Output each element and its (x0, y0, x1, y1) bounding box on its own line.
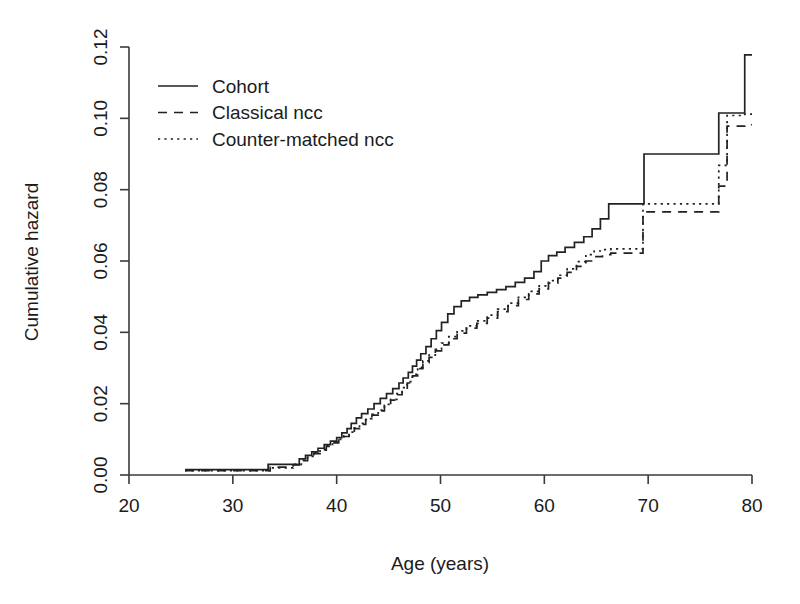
y-axis-title: Cumulative hazard (21, 183, 42, 341)
y-tick-label: 0.10 (90, 100, 111, 137)
x-tick-label: 60 (534, 495, 555, 516)
y-tick-label: 0.06 (90, 243, 111, 280)
series-line-counter-matched-ncc (185, 114, 752, 471)
x-tick-label: 70 (638, 495, 659, 516)
axes: 203040506070800.000.020.040.060.080.100.… (90, 29, 763, 516)
x-tick-label: 20 (118, 495, 139, 516)
legend-label: Cohort (212, 76, 270, 97)
x-tick-label: 80 (741, 495, 762, 516)
series-line-classical-ncc (185, 125, 752, 471)
chart-svg: 203040506070800.000.020.040.060.080.100.… (0, 0, 800, 604)
y-tick-label: 0.02 (90, 385, 111, 422)
y-tick-label: 0.04 (90, 313, 111, 350)
y-tick-label: 0.12 (90, 29, 111, 66)
x-tick-label: 50 (430, 495, 451, 516)
legend-label: Counter-matched ncc (212, 129, 394, 150)
y-tick-label: 0.08 (90, 171, 111, 208)
x-tick-label: 40 (326, 495, 347, 516)
x-axis-title: Age (years) (391, 553, 489, 574)
chart-legend: CohortClassical nccCounter-matched ncc (158, 76, 394, 150)
cumulative-hazard-chart: 203040506070800.000.020.040.060.080.100.… (0, 0, 800, 604)
y-tick-label: 0.00 (90, 457, 111, 494)
x-tick-label: 30 (222, 495, 243, 516)
legend-label: Classical ncc (212, 102, 323, 123)
